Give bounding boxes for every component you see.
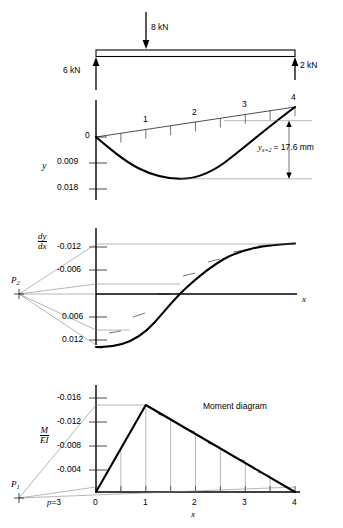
reaction-label-2kn: 2 kN bbox=[300, 60, 317, 70]
reaction-arrow-right-2kn bbox=[292, 57, 299, 80]
moment-pole-distance-value: =3 bbox=[51, 497, 61, 507]
slope-ytick-0006: 0.006 bbox=[62, 311, 83, 321]
deflection-ytick-0: 0 bbox=[85, 130, 90, 140]
moment-axis-label-mei: M EI bbox=[40, 426, 49, 445]
moment-xtick-3: 3 bbox=[242, 497, 247, 507]
beam-member bbox=[96, 50, 295, 57]
deflection-station-3: 3 bbox=[242, 99, 247, 109]
deflection-ytick-0018: 0.018 bbox=[57, 182, 78, 192]
slope-pole-marker bbox=[14, 289, 24, 299]
moment-pole-marker bbox=[14, 493, 24, 503]
slope-axis-label-denominator: dx bbox=[38, 241, 47, 251]
moment-xtick-1: 1 bbox=[143, 497, 148, 507]
slope-axis-label-dydx: dy dx bbox=[38, 232, 47, 251]
slope-pole-label: P2 bbox=[11, 275, 20, 286]
reaction-arrow-left-6kn bbox=[93, 57, 100, 90]
moment-pole-label: P1 bbox=[11, 479, 20, 490]
moment-ytick-neg0012: -0.012 bbox=[57, 416, 81, 426]
moment-strip-dividers bbox=[121, 405, 270, 492]
reaction-label-6kn: 6 kN bbox=[63, 65, 80, 75]
moment-pole-distance: p=3 bbox=[47, 497, 61, 507]
slope-ytick-0012: 0.012 bbox=[62, 334, 83, 344]
deflection-station-4: 4 bbox=[291, 92, 296, 102]
moment-axis-label-numerator: M bbox=[40, 426, 49, 435]
moment-y-ticks bbox=[89, 398, 107, 470]
deflection-station-1: 1 bbox=[143, 114, 148, 124]
deflection-axis-label-y: y bbox=[42, 160, 46, 171]
slope-curve bbox=[96, 244, 295, 348]
moment-ytick-neg0004: -0.004 bbox=[57, 464, 81, 474]
deflection-station-2: 2 bbox=[192, 107, 197, 117]
beam-panel bbox=[93, 12, 299, 90]
moment-x-axis-label: x bbox=[191, 509, 195, 519]
slope-ytick-neg0012: -0.012 bbox=[57, 241, 81, 251]
slope-pole-subscript: 2 bbox=[17, 279, 20, 286]
engineering-figure: 8 kN 6 kN 2 kN 0 0.009 0.018 y 1 2 3 4 y… bbox=[0, 0, 343, 528]
moment-ytick-neg0008: -0.008 bbox=[57, 440, 81, 450]
deflection-annotation-subscript: x=2 bbox=[262, 147, 272, 153]
moment-xtick-0: 0 bbox=[93, 497, 98, 507]
moment-pole-subscript: 1 bbox=[17, 483, 20, 490]
slope-tangent-ticks bbox=[109, 245, 270, 333]
slope-axis-label-numerator: dy bbox=[38, 232, 47, 241]
slope-x-axis-label: x bbox=[302, 294, 306, 304]
deflection-chord-ticks bbox=[121, 107, 295, 143]
moment-ytick-neg0016: -0.016 bbox=[57, 392, 81, 402]
moment-diagram-caption: Moment diagram bbox=[203, 401, 267, 411]
deflection-annotation-value: = 17.6 mm bbox=[274, 142, 314, 152]
slope-pole-rays bbox=[19, 244, 96, 345]
moment-xtick-2: 2 bbox=[192, 497, 197, 507]
deflection-annotation: yx=2= 17.6 mm bbox=[258, 142, 314, 153]
slope-ytick-neg0006: -0.006 bbox=[57, 264, 81, 274]
point-load-arrow-8kn bbox=[143, 12, 150, 49]
figure-svg bbox=[0, 0, 343, 528]
slope-construction-chords bbox=[96, 244, 295, 330]
moment-xtick-4: 4 bbox=[292, 497, 297, 507]
moment-axis-label-denominator: EI bbox=[40, 435, 49, 445]
load-label-8kn: 8 kN bbox=[151, 22, 168, 32]
deflection-ytick-0009: 0.009 bbox=[57, 156, 78, 166]
